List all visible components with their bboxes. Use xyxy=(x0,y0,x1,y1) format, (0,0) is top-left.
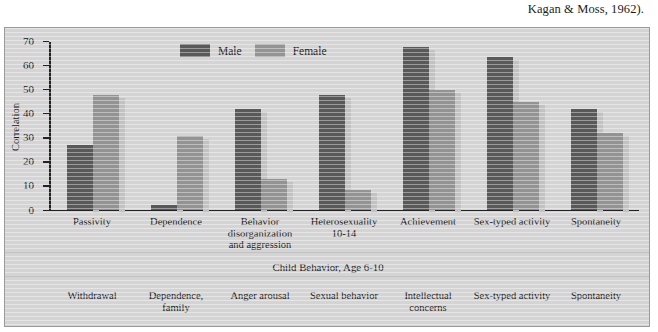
y-tick-30: 30 xyxy=(43,137,49,139)
adult-behavior-label-4: Intellectual concerns xyxy=(386,290,470,313)
child-behavior-labels: PassivityDependenceBehavior disorganizat… xyxy=(50,216,638,251)
bar-male xyxy=(67,43,93,210)
bar-shadow xyxy=(539,105,545,212)
adult-behavior-label-5: Sex-typed activity xyxy=(470,290,554,313)
bar-female xyxy=(597,43,623,210)
child-behavior-label-1: Dependence xyxy=(134,216,218,251)
bar-fill xyxy=(319,95,345,210)
bar-group xyxy=(387,43,471,210)
child-behavior-label-6: Spontaneity xyxy=(554,216,638,251)
y-tick-label-0: 0 xyxy=(29,204,35,216)
y-tick-60: 60 xyxy=(43,65,49,67)
y-tick-50: 50 xyxy=(43,89,49,91)
bar-male xyxy=(571,43,597,210)
y-axis-title: Correlation xyxy=(10,103,21,151)
bar-fill xyxy=(597,133,623,209)
y-tick-0: 0 xyxy=(43,210,49,212)
bar-fill xyxy=(177,136,203,210)
bar-group xyxy=(471,43,555,210)
bar-male xyxy=(151,43,177,210)
adult-behavior-labels: WithdrawalDependence, familyAnger arousa… xyxy=(50,290,638,313)
divider-adult-bottom xyxy=(5,326,650,327)
legend-label-female: Female xyxy=(293,45,327,57)
bar-shadow xyxy=(119,98,125,213)
y-tick-10: 10 xyxy=(43,185,49,187)
child-behavior-label-2: Behavior disorganization and aggression xyxy=(218,216,302,251)
bar-fill xyxy=(261,179,287,210)
bar-fill xyxy=(345,190,371,209)
bar-fill xyxy=(513,102,539,209)
bar-female xyxy=(93,43,119,210)
bar-shadow xyxy=(455,93,461,212)
bar-fill xyxy=(429,90,455,209)
legend-swatch-female-icon xyxy=(255,44,285,57)
plot-area: Correlation 010203040506070 xyxy=(49,42,639,211)
bar-shadow xyxy=(623,136,629,212)
y-tick-label-30: 30 xyxy=(23,131,34,143)
bar-group xyxy=(303,43,387,210)
bar-fill xyxy=(487,57,513,210)
bar-fill xyxy=(403,47,429,209)
bar-group xyxy=(555,43,639,210)
bar-fill xyxy=(151,205,177,210)
bar-male xyxy=(319,43,345,210)
legend-swatch-male-icon xyxy=(180,44,210,57)
adult-behavior-label-3: Sexual behavior xyxy=(302,290,386,313)
y-tick-label-40: 40 xyxy=(23,107,34,119)
adult-behavior-label-1: Dependence, family xyxy=(134,290,218,313)
y-tick-70: 70 xyxy=(43,41,49,43)
y-tick-label-50: 50 xyxy=(23,83,34,95)
child-behavior-section-caption: Child Behavior, Age 6-10 xyxy=(5,261,650,273)
bar-shadow xyxy=(203,139,209,213)
y-tick-label-60: 60 xyxy=(23,59,34,71)
figure-container: Male Female Correlation 010203040506070 … xyxy=(4,27,650,327)
y-tick-label-70: 70 xyxy=(23,35,34,47)
bar-fill xyxy=(235,109,261,209)
bar-male xyxy=(235,43,261,210)
figure-source-caption: Kagan & Moss, 1962). xyxy=(0,2,644,17)
y-tick-40: 40 xyxy=(43,113,49,115)
bar-group xyxy=(219,43,303,210)
y-tick-label-20: 20 xyxy=(23,155,34,167)
bar-group xyxy=(51,43,135,210)
bar-fill xyxy=(571,109,597,209)
y-tick-label-10: 10 xyxy=(23,179,34,191)
bar-female xyxy=(261,43,287,210)
child-behavior-label-3: Heterosexuality 10-14 xyxy=(302,216,386,251)
bar-fill xyxy=(93,95,119,210)
bar-shadow xyxy=(287,182,293,213)
adult-behavior-label-6: Spontaneity xyxy=(554,290,638,313)
y-tick-20: 20 xyxy=(43,161,49,163)
bar-female xyxy=(513,43,539,210)
bar-male xyxy=(487,43,513,210)
child-behavior-label-5: Sex-typed activity xyxy=(470,216,554,251)
bar-female xyxy=(429,43,455,210)
adult-behavior-label-0: Withdrawal xyxy=(50,290,134,313)
legend-label-male: Male xyxy=(218,45,242,57)
legend-item-male: Male xyxy=(180,44,242,57)
bar-shadow xyxy=(371,193,377,212)
bar-groups xyxy=(51,43,639,210)
bar-fill xyxy=(67,145,93,209)
child-behavior-label-4: Achievement xyxy=(386,216,470,251)
bar-male xyxy=(403,43,429,210)
bar-group xyxy=(135,43,219,210)
bar-female xyxy=(345,43,371,210)
chart-legend: Male Female xyxy=(180,44,327,57)
child-behavior-label-0: Passivity xyxy=(50,216,134,251)
bar-female xyxy=(177,43,203,210)
divider-child-top xyxy=(5,252,650,253)
divider-child-bottom xyxy=(5,276,650,277)
adult-behavior-label-2: Anger arousal xyxy=(218,290,302,313)
legend-item-female: Female xyxy=(255,44,327,57)
